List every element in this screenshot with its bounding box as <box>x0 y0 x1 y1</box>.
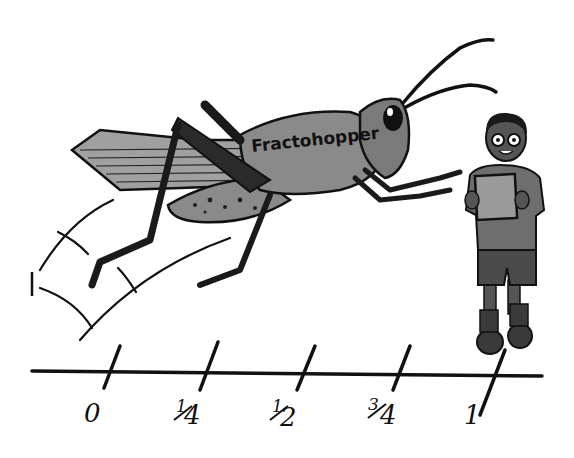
grasshopper-eye <box>383 105 403 131</box>
number-line: 0 1 4 1 2 3 4 1 <box>32 342 542 432</box>
fractohopper-illustration: Fractohopper <box>0 0 574 458</box>
antenna-lower <box>406 85 496 107</box>
tick-label-1-4: 1 4 <box>174 396 201 430</box>
antenna-upper <box>403 40 493 103</box>
tick-label-1-2: 1 2 <box>270 396 297 432</box>
tick-1-4 <box>200 342 218 390</box>
left-shoe <box>477 330 503 354</box>
tick-3-4 <box>393 346 410 390</box>
svg-text:4: 4 <box>183 400 201 430</box>
tick-1 <box>480 350 505 415</box>
tick-0 <box>104 346 120 388</box>
grasshopper: Fractohopper <box>72 40 496 285</box>
tick-1-2 <box>297 346 315 390</box>
student <box>465 113 544 354</box>
right-shoe <box>508 324 532 348</box>
tick-label-3-4: 3 4 <box>368 394 397 430</box>
student-board <box>475 174 517 220</box>
tick-label-1: 1 <box>464 400 481 430</box>
svg-text:2: 2 <box>279 402 297 432</box>
svg-text:4: 4 <box>379 400 397 430</box>
tick-label-0: 0 <box>84 398 101 428</box>
